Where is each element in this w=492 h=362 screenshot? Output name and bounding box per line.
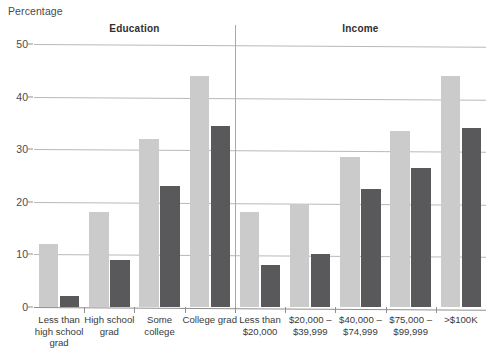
- y-tick-label-50: 50: [16, 39, 28, 50]
- bar-light-0: [39, 244, 59, 307]
- bar-dark-1: [110, 260, 130, 307]
- bar-light-1: [89, 212, 109, 307]
- bar-light-7: [390, 131, 410, 307]
- bar-dark-5: [311, 254, 331, 307]
- gridline-0: [34, 307, 486, 311]
- y-tick-label-0: 0: [22, 302, 28, 313]
- y-tick-label-40: 40: [16, 91, 28, 102]
- x-tick-separator-1: [84, 307, 85, 313]
- bar-light-4: [240, 212, 260, 307]
- bar-dark-7: [411, 168, 431, 307]
- x-tick-separator-5: [285, 307, 286, 313]
- gridline-50: [34, 44, 486, 48]
- y-tick-mark-50: [28, 44, 33, 45]
- panel-title-education: Education: [109, 23, 159, 34]
- x-category-label-2: Some college: [131, 314, 187, 337]
- x-category-label-5: $20,000 – $39,999: [282, 314, 338, 337]
- x-category-label-0: Less than high school grad: [31, 314, 87, 349]
- gridline-30: [34, 149, 486, 153]
- x-tick-separator-6: [335, 307, 336, 313]
- x-category-label-3: College grad: [182, 314, 238, 326]
- x-category-label-1: High school grad: [81, 314, 137, 337]
- panel-title-income: Income: [342, 23, 378, 34]
- bar-light-3: [190, 76, 210, 307]
- bar-light-5: [290, 204, 310, 307]
- y-tick-label-20: 20: [16, 197, 28, 208]
- plot-area: 01020304050Less than high school gradHig…: [34, 44, 486, 307]
- bar-light-8: [441, 76, 461, 307]
- panel-divider: [235, 25, 236, 307]
- x-category-label-4: Less than $20,000: [232, 314, 288, 337]
- bar-dark-6: [361, 189, 381, 307]
- x-tick-separator-3: [185, 307, 186, 313]
- y-tick-mark-40: [28, 96, 33, 97]
- x-category-label-6: $40,000 – $74,999: [332, 314, 388, 337]
- x-tick-separator-4: [235, 307, 236, 313]
- bar-chart: Percentage 01020304050Less than high sch…: [0, 0, 492, 362]
- y-tick-mark-0: [28, 307, 33, 308]
- x-category-label-8: >$100K: [433, 314, 489, 326]
- y-tick-mark-10: [28, 254, 33, 255]
- y-tick-mark-30: [28, 149, 33, 150]
- x-tick-separator-7: [386, 307, 387, 313]
- bar-dark-0: [60, 296, 80, 307]
- y-tick-label-30: 30: [16, 144, 28, 155]
- bar-dark-4: [261, 265, 281, 307]
- x-tick-separator-8: [436, 307, 437, 313]
- gridline-40: [34, 97, 486, 101]
- y-axis-title: Percentage: [8, 5, 63, 17]
- bar-dark-2: [160, 186, 180, 307]
- bar-dark-8: [462, 128, 482, 307]
- bar-light-6: [340, 157, 360, 307]
- bar-light-2: [139, 139, 159, 307]
- x-tick-separator-2: [134, 307, 135, 313]
- x-category-label-7: $75,000 – $99,999: [383, 314, 439, 337]
- y-tick-label-10: 10: [16, 249, 28, 260]
- y-tick-mark-20: [28, 201, 33, 202]
- bar-dark-3: [211, 126, 231, 307]
